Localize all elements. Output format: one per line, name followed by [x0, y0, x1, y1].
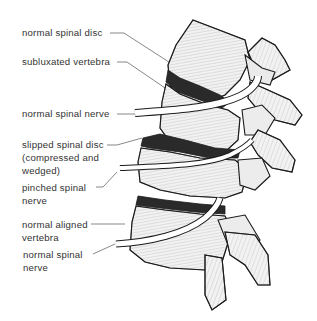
label-normal-aligned-vertebra: normal aligned vertebra [22, 218, 88, 244]
leader-normal-spinal-disc [110, 33, 172, 64]
leader-subluxated-vertebra [117, 62, 168, 90]
leader-slipped-spinal-disc [107, 138, 142, 145]
leader-normal-spinal-nerve-bottom [93, 244, 115, 254]
label-normal-spinal-nerve-bottom: normal spinal nerve [23, 248, 83, 274]
label-slipped-spinal-disc: slipped spinal disc (compressed and wedg… [22, 138, 104, 177]
label-pinched-spinal-nerve: pinched spinal nerve [22, 181, 86, 207]
spine-illustration-figure: normal spinal disc subluxated vertebra n… [0, 0, 317, 321]
label-normal-spinal-disc: normal spinal disc [22, 26, 102, 39]
label-normal-spinal-nerve-top: normal spinal nerve [22, 107, 110, 120]
label-subluxated-vertebra: subluxated vertebra [22, 55, 110, 68]
